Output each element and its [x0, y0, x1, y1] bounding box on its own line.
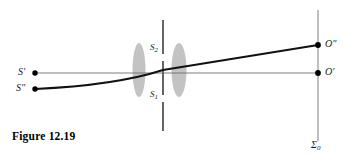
- figure-container: S′ S″ O″ O′ S2 S1 Σ0 Figure 12.19: [0, 0, 349, 157]
- point-source-upper: [32, 70, 37, 75]
- label-slit-upper: S2: [150, 43, 158, 54]
- lens-one: [133, 43, 146, 97]
- label-slit-lower: S1: [150, 90, 158, 101]
- label-source-upper: S′: [18, 67, 25, 77]
- label-slit-lower-subscript: 1: [155, 93, 159, 101]
- label-observation-plane: Σ0: [311, 140, 320, 152]
- label-plane-subscript: 0: [317, 144, 321, 152]
- label-image-upper: O″: [325, 39, 336, 49]
- point-image-upper: [315, 42, 321, 48]
- figure-caption: Figure 12.19: [12, 130, 76, 142]
- label-source-lower: S″: [16, 83, 25, 93]
- lens-two: [172, 43, 187, 97]
- point-image-lower: [315, 70, 321, 76]
- label-slit-upper-subscript: 2: [155, 46, 159, 54]
- label-image-lower: O′: [325, 67, 334, 77]
- point-source-lower: [32, 86, 37, 91]
